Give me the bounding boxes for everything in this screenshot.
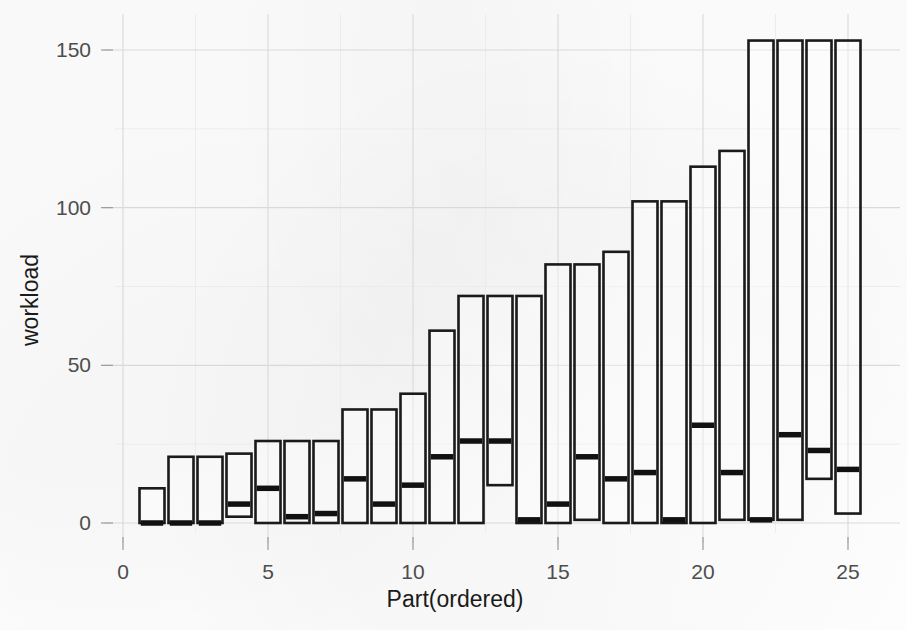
box-item: [169, 457, 194, 523]
box-item: [256, 441, 281, 523]
y-tick-label: 100: [56, 196, 91, 219]
box-rect: [459, 296, 484, 523]
y-axis-title: workload: [17, 254, 43, 347]
box-item: [778, 41, 803, 520]
box-rect: [807, 41, 832, 479]
box-rect: [517, 296, 542, 523]
box-rect: [343, 409, 368, 523]
box-item: [343, 409, 368, 523]
box-rect: [488, 296, 513, 485]
workload-boxplot-chart: 050100150 0510152025 workload Part(order…: [0, 0, 907, 630]
box-item: [575, 264, 600, 519]
x-tick-label: 10: [401, 560, 424, 583]
figure-canvas: 050100150 0510152025 workload Part(order…: [0, 0, 907, 630]
box-rect: [227, 454, 252, 517]
box-item: [401, 394, 426, 523]
box-item: [198, 457, 223, 523]
y-axis-tick-labels: 050100150: [56, 38, 91, 534]
box-rect: [401, 394, 426, 523]
box-item: [836, 41, 861, 514]
box-rect: [575, 264, 600, 519]
box-rect: [430, 331, 455, 523]
box-rect: [140, 488, 165, 523]
box-rect: [720, 151, 745, 520]
x-tick-label: 15: [546, 560, 569, 583]
box-item: [140, 488, 165, 523]
box-rect: [285, 441, 310, 523]
y-tick-label: 50: [68, 353, 91, 376]
box-item: [546, 264, 571, 523]
box-series: [140, 41, 861, 523]
box-item: [285, 441, 310, 523]
box-item: [488, 296, 513, 485]
box-rect: [836, 41, 861, 514]
x-tick-label: 0: [117, 560, 129, 583]
box-rect: [662, 201, 687, 523]
box-rect: [749, 41, 774, 520]
box-item: [749, 41, 774, 520]
x-tick-label: 5: [262, 560, 274, 583]
y-axis-ticks: [101, 50, 113, 523]
box-rect: [256, 441, 281, 523]
box-rect: [198, 457, 223, 523]
x-axis-ticks: [123, 537, 848, 550]
box-rect: [169, 457, 194, 523]
x-axis-title: Part(ordered): [387, 586, 524, 612]
y-tick-label: 150: [56, 38, 91, 61]
box-item: [691, 167, 716, 523]
box-item: [720, 151, 745, 520]
box-item: [517, 296, 542, 523]
x-tick-label: 20: [691, 560, 714, 583]
box-item: [459, 296, 484, 523]
box-rect: [314, 441, 339, 523]
box-item: [314, 441, 339, 523]
box-item: [807, 41, 832, 479]
box-rect: [604, 252, 629, 523]
box-rect: [691, 167, 716, 523]
box-item: [633, 201, 658, 523]
box-item: [430, 331, 455, 523]
box-item: [227, 454, 252, 517]
box-item: [662, 201, 687, 523]
x-axis-tick-labels: 0510152025: [117, 560, 860, 583]
box-item: [604, 252, 629, 523]
box-rect: [546, 264, 571, 523]
box-rect: [778, 41, 803, 520]
x-tick-label: 25: [836, 560, 859, 583]
y-tick-label: 0: [79, 511, 91, 534]
box-item: [372, 409, 397, 523]
